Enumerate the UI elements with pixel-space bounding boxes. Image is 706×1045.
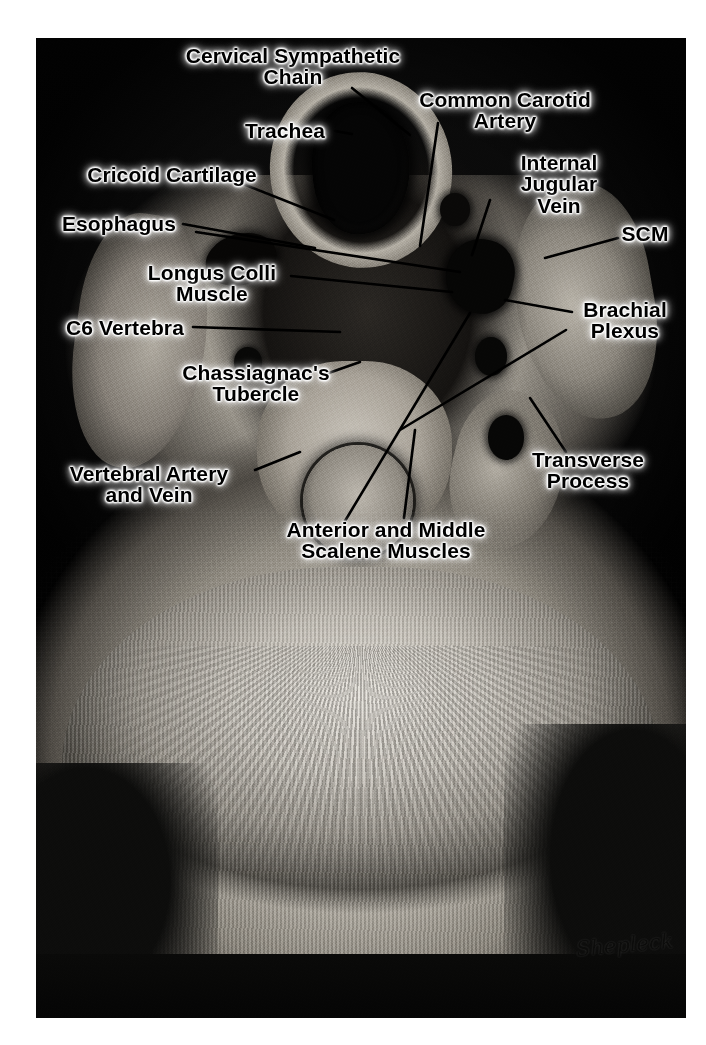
chassiagnacs-tubercle-marker <box>234 347 261 378</box>
photo-bottom-edge <box>36 954 686 1018</box>
specimen-photograph <box>36 38 686 1018</box>
vertebral-foramen-upper <box>475 337 508 376</box>
anatomy-figure: Cervical Sympathetic ChainTracheaCricoid… <box>36 38 686 1018</box>
